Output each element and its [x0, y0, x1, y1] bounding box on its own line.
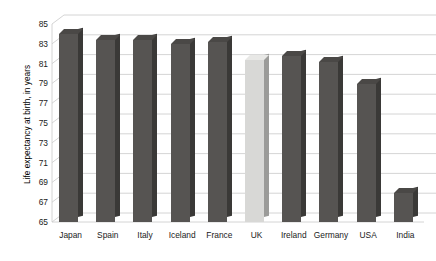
- y-axis-tick: 73: [26, 139, 48, 147]
- bar-slot: [126, 24, 163, 222]
- bar-front-face: [394, 193, 413, 222]
- bar-side-face: [338, 55, 343, 217]
- bar-front-face: [171, 44, 190, 222]
- bar-slot: [164, 24, 201, 222]
- bar-japan[interactable]: [59, 34, 78, 222]
- bar-front-face: [357, 84, 376, 222]
- y-axis-tick: 71: [26, 159, 48, 167]
- bar-uk[interactable]: [245, 60, 264, 222]
- y-axis-tick: 67: [26, 198, 48, 206]
- x-axis-tick-labels: JapanSpainItalyIcelandFranceUKIrelandGer…: [52, 230, 424, 246]
- y-axis-tick: 65: [26, 218, 48, 226]
- bar-side-face: [301, 49, 306, 217]
- bar-spain[interactable]: [96, 40, 115, 222]
- bar-side-face: [264, 53, 269, 217]
- bar-usa[interactable]: [357, 84, 376, 222]
- bar-front-face: [96, 40, 115, 222]
- bar-front-face: [133, 40, 152, 222]
- bar-slot: [201, 24, 238, 222]
- bar-slot: [238, 24, 275, 222]
- bar-france[interactable]: [208, 42, 227, 222]
- bar-iceland[interactable]: [171, 44, 190, 222]
- y-axis-tick: 81: [26, 60, 48, 68]
- bar-ireland[interactable]: [282, 56, 301, 222]
- bar-front-face: [245, 60, 264, 222]
- bar-side-face: [190, 37, 195, 217]
- y-axis-tick-labels: 8583817977757371696765: [26, 0, 48, 261]
- bar-front-face: [59, 34, 78, 222]
- y-axis-tick: 77: [26, 99, 48, 107]
- y-axis-tick: 85: [26, 20, 48, 28]
- y-axis-tick: 83: [26, 40, 48, 48]
- bar-chart: Life expectancy at birth, in years 85838…: [0, 0, 436, 261]
- bar-side-face: [376, 78, 381, 217]
- bar-front-face: [282, 56, 301, 222]
- bar-slot: [89, 24, 126, 222]
- bar-germany[interactable]: [319, 62, 338, 222]
- bar-india[interactable]: [394, 193, 413, 222]
- bar-slot: [52, 24, 89, 222]
- bar-side-face: [115, 34, 120, 217]
- bar-side-face: [152, 34, 157, 217]
- bar-slot: [350, 24, 387, 222]
- y-axis-tick: 75: [26, 119, 48, 127]
- bar-slot: [387, 24, 424, 222]
- bar-front-face: [208, 42, 227, 222]
- bar-slot: [312, 24, 349, 222]
- y-axis-tick: 79: [26, 79, 48, 87]
- y-axis-tick: 69: [26, 178, 48, 186]
- bar-side-face: [78, 28, 83, 217]
- bar-italy[interactable]: [133, 40, 152, 222]
- bar-series: [52, 24, 424, 222]
- bar-slot: [275, 24, 312, 222]
- x-axis-label-india: India: [382, 230, 428, 240]
- bar-side-face: [227, 35, 232, 217]
- bar-front-face: [319, 62, 338, 222]
